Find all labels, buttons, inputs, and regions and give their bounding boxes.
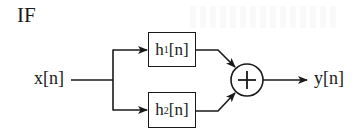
output-label: y[n] <box>314 68 344 89</box>
input-label: x[n] <box>34 68 64 89</box>
h1-to-summer-arrow <box>195 50 235 67</box>
block-h1: h1[n] <box>148 32 196 67</box>
h2-to-summer-arrow <box>195 93 235 111</box>
block-h2-base: h <box>155 100 164 120</box>
block-h1-base: h <box>155 40 164 60</box>
block-h2-suffix: [n] <box>169 100 189 120</box>
block-h1-suffix: [n] <box>169 40 189 60</box>
block-h2: h2[n] <box>148 92 196 128</box>
